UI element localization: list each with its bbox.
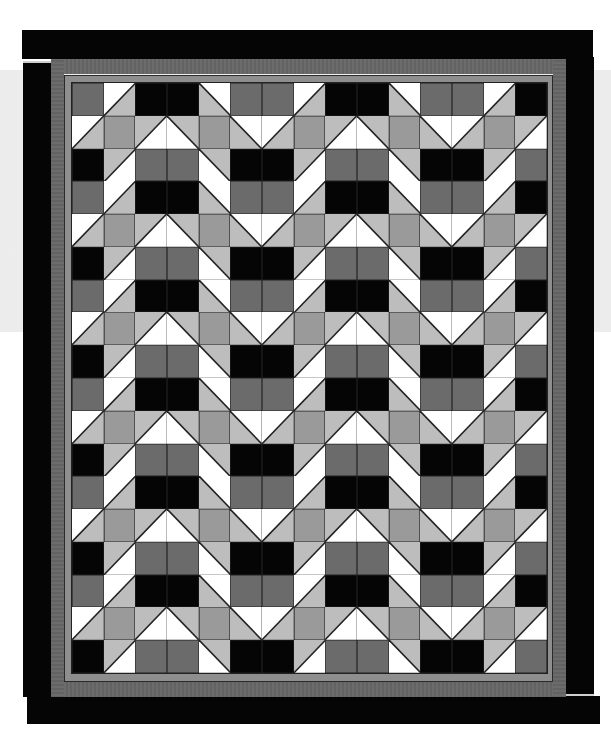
half-square-triangle (135, 312, 167, 345)
black-square (420, 149, 452, 182)
dark-gray-square (262, 476, 294, 509)
dark-gray-square (167, 149, 199, 182)
dark-gray-square (420, 378, 452, 411)
mid-gray-square (484, 607, 516, 640)
half-square-triangle (325, 214, 357, 247)
black-square (357, 476, 389, 509)
dark-gray-square (72, 280, 104, 313)
black-square (357, 378, 389, 411)
dark-gray-square (167, 345, 199, 378)
mid-gray-square (294, 116, 326, 149)
dark-gray-border-left (51, 59, 64, 697)
half-square-triangle (230, 607, 262, 640)
half-square-triangle (199, 575, 231, 608)
dark-gray-square (325, 542, 357, 575)
half-square-triangle (199, 83, 231, 116)
dark-gray-square (72, 575, 104, 608)
dark-gray-square (262, 378, 294, 411)
outer-black-border-left (23, 61, 51, 697)
dark-gray-square (167, 542, 199, 575)
black-square (357, 83, 389, 116)
black-square (262, 542, 294, 575)
half-square-triangle (262, 509, 294, 542)
half-square-triangle (357, 214, 389, 247)
half-square-triangle (357, 116, 389, 149)
dark-gray-square (452, 575, 484, 608)
black-square (420, 247, 452, 280)
half-square-triangle (484, 444, 516, 477)
black-square (325, 181, 357, 214)
half-square-triangle (484, 575, 516, 608)
black-square (325, 476, 357, 509)
dark-gray-square (515, 345, 547, 378)
half-square-triangle (389, 444, 421, 477)
half-square-triangle (199, 444, 231, 477)
outer-black-border-top (22, 30, 593, 59)
half-square-triangle (389, 345, 421, 378)
half-square-triangle (199, 640, 231, 673)
dark-gray-border-right (553, 59, 566, 697)
dark-gray-square (515, 247, 547, 280)
half-square-triangle (135, 214, 167, 247)
black-square (230, 149, 262, 182)
half-square-triangle (484, 378, 516, 411)
half-square-triangle (135, 509, 167, 542)
black-square (420, 542, 452, 575)
half-square-triangle (230, 116, 262, 149)
black-square (135, 280, 167, 313)
mid-gray-square (484, 214, 516, 247)
dark-gray-square (135, 640, 167, 673)
mid-gray-square (389, 116, 421, 149)
half-square-triangle (135, 116, 167, 149)
black-square (325, 378, 357, 411)
half-square-triangle (484, 476, 516, 509)
half-square-triangle (262, 116, 294, 149)
black-square (515, 476, 547, 509)
dark-gray-square (167, 444, 199, 477)
black-square (452, 247, 484, 280)
mid-gray-square (199, 411, 231, 444)
dark-gray-square (230, 378, 262, 411)
half-square-triangle (167, 607, 199, 640)
mid-gray-square (484, 509, 516, 542)
half-square-triangle (294, 640, 326, 673)
black-square (325, 83, 357, 116)
half-square-triangle (167, 312, 199, 345)
half-square-triangle (262, 411, 294, 444)
dark-gray-square (357, 149, 389, 182)
half-square-triangle (484, 640, 516, 673)
half-square-triangle (325, 509, 357, 542)
half-square-triangle (167, 411, 199, 444)
black-square (230, 640, 262, 673)
half-square-triangle (230, 509, 262, 542)
dark-gray-square (135, 247, 167, 280)
mid-gray-square (484, 312, 516, 345)
half-square-triangle (262, 312, 294, 345)
black-square (135, 83, 167, 116)
half-square-triangle (135, 411, 167, 444)
black-square (167, 181, 199, 214)
half-square-triangle (294, 280, 326, 313)
half-square-triangle (294, 444, 326, 477)
black-square (72, 542, 104, 575)
dark-gray-square (262, 280, 294, 313)
half-square-triangle (199, 247, 231, 280)
black-square (452, 444, 484, 477)
dark-gray-square (230, 476, 262, 509)
black-square (325, 575, 357, 608)
black-square (515, 575, 547, 608)
half-square-triangle (484, 83, 516, 116)
black-square (230, 345, 262, 378)
half-square-triangle (515, 214, 547, 247)
dark-gray-square (230, 83, 262, 116)
half-square-triangle (294, 575, 326, 608)
black-square (72, 640, 104, 673)
mid-gray-square (294, 509, 326, 542)
dark-gray-square (230, 181, 262, 214)
dark-gray-square (357, 345, 389, 378)
half-square-triangle (452, 116, 484, 149)
half-square-triangle (230, 312, 262, 345)
black-square (420, 444, 452, 477)
mid-gray-square (484, 411, 516, 444)
half-square-triangle (484, 181, 516, 214)
